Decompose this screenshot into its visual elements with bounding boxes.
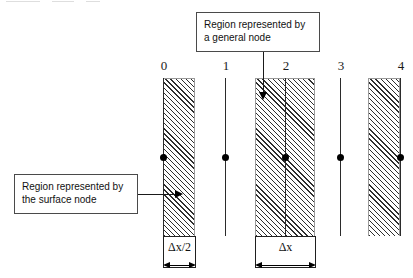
dimension-label-half: Δx/2 <box>163 240 196 255</box>
figure-canvas: 0 1 2 3 4 Region represented by a genera… <box>0 0 413 278</box>
dimension-arrow-right-full <box>309 262 316 268</box>
callout-general-node: Region represented by a general node <box>196 12 320 52</box>
leader-arrowhead-general-node <box>259 92 267 100</box>
node-label-3: 3 <box>331 58 351 74</box>
callout-surface-node: Region represented by the surface node <box>14 174 138 214</box>
scan-artifact <box>52 1 74 2</box>
node-dot-0 <box>160 154 167 161</box>
node-label-1: 1 <box>216 58 236 74</box>
leader-arrowhead-surface-node <box>175 190 183 198</box>
dimension-arrow-right-half <box>189 262 196 268</box>
leader-line-surface-node <box>138 194 176 195</box>
dimension-arrow-left-full <box>255 262 262 268</box>
node-dot-3 <box>337 154 344 161</box>
dimension-label-full: Δx <box>255 240 316 255</box>
region-node-4 <box>368 78 400 236</box>
scan-artifact <box>6 1 40 2</box>
dimension-arrow-left-half <box>163 262 170 268</box>
node-dot-2 <box>282 154 289 161</box>
node-dot-4 <box>397 154 404 161</box>
node-label-0: 0 <box>154 58 174 74</box>
node-label-4: 4 <box>391 58 411 74</box>
node-dot-1 <box>222 154 229 161</box>
region-node-0 <box>163 78 195 236</box>
leader-line-general-node <box>263 52 264 92</box>
node-label-2: 2 <box>276 58 296 74</box>
dimension-bar-full <box>257 265 314 266</box>
scan-artifact <box>86 1 100 2</box>
